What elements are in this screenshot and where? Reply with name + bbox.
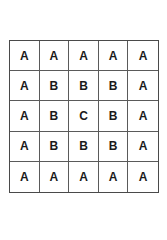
grid-cell: B bbox=[69, 132, 99, 162]
grid-cell: A bbox=[128, 162, 158, 192]
grid-cell: B bbox=[40, 71, 70, 101]
grid-cell: B bbox=[99, 71, 129, 101]
grid-cell: B bbox=[69, 71, 99, 101]
grid-cell: A bbox=[128, 41, 158, 71]
grid-cell: A bbox=[128, 101, 158, 131]
grid-cell: A bbox=[128, 71, 158, 101]
grid-cell: A bbox=[10, 41, 40, 71]
grid-cell: A bbox=[99, 41, 129, 71]
grid-cell: B bbox=[40, 132, 70, 162]
grid-cell: B bbox=[99, 101, 129, 131]
grid-cell: A bbox=[69, 162, 99, 192]
grid-cell: A bbox=[10, 132, 40, 162]
grid-cell: A bbox=[10, 162, 40, 192]
grid-cell: A bbox=[128, 132, 158, 162]
grid-cell: A bbox=[10, 101, 40, 131]
letter-grid: AAAAAABBBAABCBAABBBAAAAAA bbox=[9, 40, 159, 193]
grid-cell: B bbox=[99, 132, 129, 162]
grid-cell: A bbox=[69, 41, 99, 71]
grid-cell: A bbox=[10, 71, 40, 101]
grid-cell: B bbox=[40, 101, 70, 131]
grid-cell: A bbox=[99, 162, 129, 192]
grid-cell: C bbox=[69, 101, 99, 131]
grid-cell: A bbox=[40, 41, 70, 71]
grid-cell: A bbox=[40, 162, 70, 192]
